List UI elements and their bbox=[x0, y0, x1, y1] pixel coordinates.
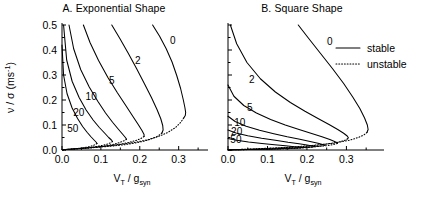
curve-label: 0 bbox=[170, 35, 176, 46]
y-axis-title: ν / σ (ms-1) bbox=[3, 62, 16, 113]
y-tick-label: 0.4 bbox=[42, 44, 57, 56]
curve-label: 5 bbox=[109, 75, 115, 86]
panel-b-plot: 0.00.10.20.3025102050VT / gsyn bbox=[200, 0, 432, 197]
x-axis-title: VT / gsyn bbox=[113, 172, 150, 187]
legend-unstable-label: unstable bbox=[367, 58, 407, 70]
curve-label: 20 bbox=[73, 107, 85, 118]
panel-a-plot: 0.00.10.20.30.00.10.20.30.40.5025102050V… bbox=[0, 0, 216, 197]
curve-label: 2 bbox=[249, 74, 255, 85]
x-tick-label: 0.0 bbox=[221, 153, 236, 165]
stable-branch-curve bbox=[112, 25, 163, 133]
panel-b-square-shape: B. Square Shape 0.00.10.20.3025102050VT … bbox=[200, 0, 432, 197]
curve-label: 50 bbox=[67, 123, 79, 134]
x-tick-label: 0.2 bbox=[300, 153, 315, 165]
panel-a-exponential-shape: A. Exponential Shape 0.00.10.20.30.00.10… bbox=[0, 0, 216, 197]
y-tick-label: 0.0 bbox=[42, 144, 57, 156]
axis-lines bbox=[62, 23, 208, 150]
x-tick-label: 0.1 bbox=[260, 153, 275, 165]
x-tick-label: 0.3 bbox=[171, 153, 186, 165]
x-tick-label: 0.3 bbox=[339, 153, 354, 165]
curve-label: 5 bbox=[247, 102, 253, 113]
x-axis-title: VT / gsyn bbox=[284, 172, 321, 187]
curve-label: 2 bbox=[135, 55, 141, 66]
y-tick-label: 0.2 bbox=[42, 94, 57, 106]
figure-bifurcation-diagrams: A. Exponential Shape 0.00.10.20.30.00.10… bbox=[0, 0, 432, 197]
legend: stableunstable bbox=[334, 40, 432, 90]
y-tick-label: 0.5 bbox=[42, 19, 57, 31]
y-tick-label: 0.3 bbox=[42, 69, 57, 81]
x-tick-label: 0.2 bbox=[132, 153, 147, 165]
curve-label: 0 bbox=[327, 36, 333, 47]
curve-label: 10 bbox=[86, 91, 98, 102]
legend-stable-label: stable bbox=[367, 42, 395, 54]
x-tick-label: 0.1 bbox=[94, 153, 109, 165]
curve-label: 50 bbox=[230, 134, 242, 145]
y-tick-label: 0.1 bbox=[42, 119, 57, 131]
